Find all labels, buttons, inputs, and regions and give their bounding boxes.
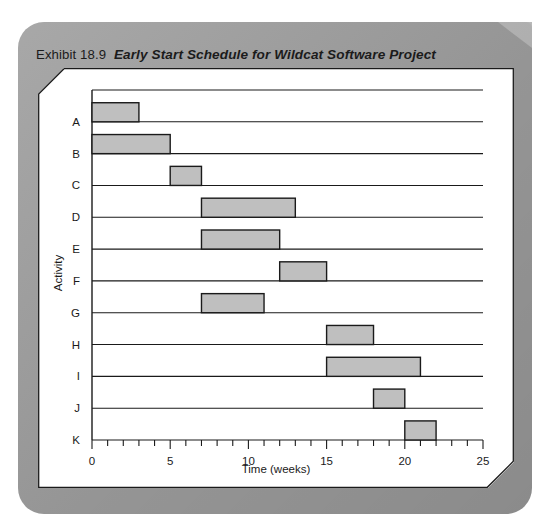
exhibit-label: Exhibit [36,47,76,62]
chart-x-ticks [92,440,483,449]
gantt-bar-C[interactable] [170,166,201,185]
gantt-chart-svg: ABCDEFGHIJK 0510152025 Time (weeks) Acti… [38,68,514,488]
category-label-E: E [72,243,80,255]
category-label-I: I [77,370,80,382]
gantt-bar-F[interactable] [280,262,327,281]
category-label-G: G [71,307,80,319]
gantt-bar-D[interactable] [201,198,295,217]
category-label-J: J [74,402,80,414]
gantt-bar-J[interactable] [374,389,405,408]
gantt-bar-B[interactable] [92,135,170,154]
x-axis-title: Time (weeks) [242,463,311,475]
gantt-bar-H[interactable] [327,325,374,344]
category-label-B: B [72,148,80,160]
gantt-bar-E[interactable] [201,230,279,249]
exhibit-number: 18.9 [80,47,106,62]
gantt-chart: ABCDEFGHIJK 0510152025 Time (weeks) Acti… [38,68,514,488]
category-label-C: C [72,179,80,191]
chart-category-labels: ABCDEFGHIJK [71,116,80,446]
x-tick-label-20: 20 [398,455,411,467]
gantt-bar-K[interactable] [405,421,436,440]
gantt-bar-I[interactable] [327,357,421,376]
x-tick-label-25: 25 [477,455,490,467]
category-label-H: H [72,339,80,351]
category-label-D: D [72,211,80,223]
category-label-K: K [72,434,80,446]
figure-panel-outline [39,69,514,488]
y-axis-title: Activity [52,255,64,292]
x-tick-label-15: 15 [320,455,333,467]
x-tick-label-5: 5 [167,455,173,467]
category-label-F: F [73,275,80,287]
gantt-bar-G[interactable] [201,294,264,313]
category-label-A: A [72,116,80,128]
x-tick-label-0: 0 [89,455,95,467]
gantt-bar-A[interactable] [92,103,139,122]
exhibit-caption: Exhibit 18.9 Early Start Schedule for Wi… [36,47,486,62]
exhibit-title: Early Start Schedule for Wildcat Softwar… [114,47,436,62]
page-corner-fold [498,22,532,48]
